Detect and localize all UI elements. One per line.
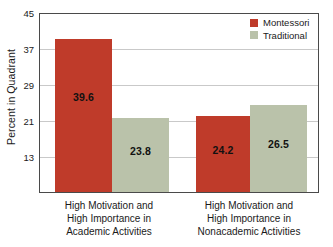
legend-swatch-traditional [250, 31, 258, 39]
legend-item-montessori[interactable]: Montessori [250, 18, 309, 28]
bar-value-montessori-nonacademic: 24.2 [196, 144, 250, 156]
bar-chart: Percent in Quadrant 45 37 29 21 13 39.6 … [0, 0, 333, 247]
x-category-nonacademic-line-2: High Importance in [179, 212, 319, 225]
bar-traditional-nonacademic[interactable]: 26.5 [250, 105, 307, 192]
x-category-nonacademic: High Motivation and High Importance in N… [179, 197, 319, 245]
y-axis-tick-labels: 45 37 29 21 13 [18, 0, 37, 247]
legend-item-traditional[interactable]: Traditional [250, 31, 309, 41]
x-category-nonacademic-line-3: Nonacademic Activities [179, 225, 319, 238]
bars-layer: 39.6 23.8 24.2 26.5 [40, 14, 318, 192]
legend-swatch-montessori [250, 19, 258, 27]
y-tick-45: 45 [23, 8, 34, 19]
bar-value-traditional-academic: 23.8 [112, 145, 169, 157]
legend: Montessori Traditional [250, 18, 309, 40]
y-tick-29: 29 [23, 80, 34, 91]
bar-value-traditional-nonacademic: 26.5 [250, 138, 307, 150]
y-tick-13: 13 [23, 152, 34, 163]
x-category-academic-line-1: High Motivation and [39, 199, 179, 212]
bar-value-montessori-academic: 39.6 [55, 91, 112, 103]
y-tick-21: 21 [23, 116, 34, 127]
legend-label-traditional: Traditional [263, 31, 307, 41]
bar-montessori-academic[interactable]: 39.6 [55, 39, 112, 192]
y-tick-37: 37 [23, 44, 34, 55]
legend-label-montessori: Montessori [263, 18, 309, 28]
x-category-academic: High Motivation and High Importance in A… [39, 197, 179, 245]
y-axis-title-text: Percent in Quadrant [5, 49, 17, 145]
x-axis-category-labels: High Motivation and High Importance in A… [39, 197, 319, 245]
x-category-nonacademic-line-1: High Motivation and [179, 199, 319, 212]
bar-traditional-academic[interactable]: 23.8 [112, 118, 169, 192]
x-category-academic-line-3: Academic Activities [39, 225, 179, 238]
x-category-academic-line-2: High Importance in [39, 212, 179, 225]
bar-montessori-nonacademic[interactable]: 24.2 [196, 116, 250, 192]
